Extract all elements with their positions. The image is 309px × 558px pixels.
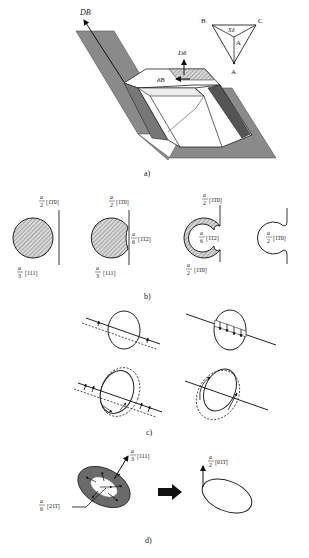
loop-b3: a 2 [1̄1̄0] a 6 [1̄1̄2] a 2 [1̄1̄0] (184, 192, 222, 276)
svg-text:[111]: [111] (25, 270, 38, 277)
triangle-label-b: B (201, 17, 206, 25)
svg-text:a: a (203, 192, 206, 198)
delta-b-label: δB (157, 76, 165, 84)
loop-b2: a 2 [1̄1̄0] a 6 [1̄1̄2] a 3 [111] (91, 194, 150, 279)
svg-text:[111]: [111] (137, 453, 150, 460)
svg-text:6: 6 (132, 239, 135, 245)
svg-text:a: a (267, 230, 270, 236)
svg-text:6: 6 (40, 506, 43, 512)
svg-text:[1̄1̄0]: [1̄1̄0] (46, 199, 59, 206)
normal-arrow (114, 456, 128, 479)
svg-text:[21̄1̄]: [21̄1̄] (47, 503, 60, 510)
triangle-inner-a: A (236, 39, 241, 47)
svg-text:[1̄1̄0]: [1̄1̄0] (273, 235, 286, 242)
perfect-loop (197, 472, 256, 519)
caption-b: b) (144, 292, 151, 301)
panel-a: DB Dδ δB B C A (76, 8, 276, 178)
svg-text:3: 3 (96, 273, 99, 279)
loop-c1 (82, 311, 160, 349)
svg-text:[01̄1̄]: [01̄1̄] (215, 459, 228, 466)
svg-text:[1̄1̄2]: [1̄1̄2] (206, 235, 219, 242)
svg-text:[1̄1̄0]: [1̄1̄0] (194, 267, 207, 274)
caption-a: a) (144, 169, 151, 178)
panel-d: a 3 [111] a 6 [21̄1̄] a 2 [01̄1̄] d) (39, 448, 257, 545)
loop-b4: a 2 [1̄1̄0] (257, 208, 287, 264)
svg-text:a: a (209, 454, 212, 460)
thompson-tetrahedron: B C A A Xδ (201, 17, 263, 76)
svg-text:2: 2 (40, 202, 43, 208)
svg-text:a: a (132, 231, 135, 237)
d-delta-label: Dδ (177, 49, 187, 57)
loop-c2 (186, 310, 276, 350)
svg-text:2: 2 (209, 462, 212, 468)
svg-text:2: 2 (187, 270, 190, 276)
svg-text:a: a (200, 230, 203, 236)
transform-arrow (158, 484, 182, 500)
loop-c4 (185, 362, 268, 427)
loop-b1: a 2 [1̄1̄0] a 3 [111] (13, 194, 59, 279)
svg-text:2: 2 (267, 238, 270, 244)
triangle-inner-delta: Xδ (227, 27, 235, 33)
caption-c: c) (146, 428, 153, 437)
panel-c: c) (74, 310, 276, 437)
svg-text:a: a (187, 262, 190, 268)
svg-text:a: a (40, 194, 43, 200)
svg-text:2: 2 (203, 200, 206, 206)
loop-c3 (74, 362, 162, 422)
svg-text:a: a (131, 448, 134, 454)
triangle-label-c: C (258, 17, 263, 25)
svg-text:[1̄1̄0]: [1̄1̄0] (209, 197, 222, 204)
svg-text:3: 3 (131, 456, 134, 462)
svg-text:[1̄1̄0]: [1̄1̄0] (116, 199, 129, 206)
svg-text:6: 6 (200, 238, 203, 244)
crystal-block (124, 69, 252, 147)
caption-d: d) (145, 536, 152, 545)
svg-text:a: a (18, 265, 21, 271)
triangle-label-a: A (231, 68, 236, 76)
figure-canvas: DB Dδ δB B C A (0, 0, 309, 558)
svg-text:3: 3 (18, 273, 21, 279)
svg-text:a: a (110, 194, 113, 200)
svg-text:a: a (40, 498, 43, 504)
db-label: DB (79, 8, 91, 17)
svg-text:[111]: [111] (103, 270, 116, 277)
svg-text:2: 2 (110, 202, 113, 208)
panel-b: a 2 [1̄1̄0] a 3 [111] a 2 [1̄1̄0] a 6 [1… (13, 192, 287, 301)
svg-text:[1̄1̄2]: [1̄1̄2] (138, 236, 151, 243)
svg-text:a: a (96, 265, 99, 271)
